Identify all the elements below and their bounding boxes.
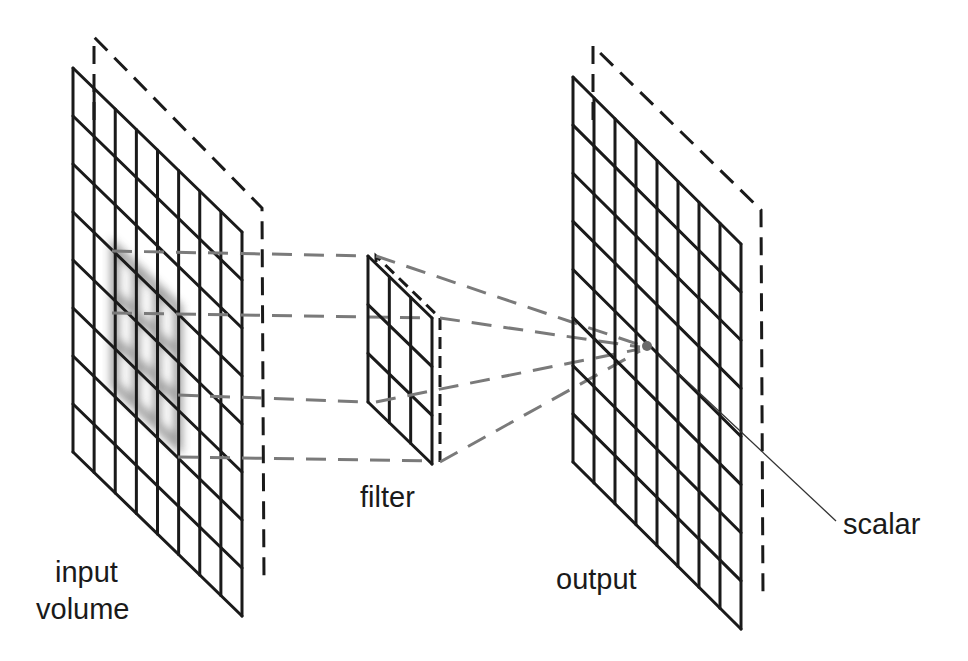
filter-front-grid [368, 256, 432, 464]
input-label-line2: volume [36, 595, 130, 624]
output-volume [573, 46, 836, 629]
scalar-label: scalar [843, 510, 920, 539]
scalar-dot [642, 341, 652, 351]
input-label-line1: input [55, 558, 130, 587]
input-volume [73, 37, 264, 616]
projection-lines-filter-to-output [376, 256, 640, 462]
filter-label: filter [360, 483, 415, 512]
input-volume-label: input volume [55, 558, 130, 624]
filter-back-frame [376, 256, 440, 462]
receptive-field-highlight [115, 248, 178, 445]
filter [368, 256, 440, 464]
convolution-diagram [0, 0, 968, 661]
scalar-leader-line [659, 355, 836, 521]
input-front-grid [73, 68, 242, 616]
output-label: output [556, 565, 637, 594]
output-front-grid [573, 77, 741, 629]
